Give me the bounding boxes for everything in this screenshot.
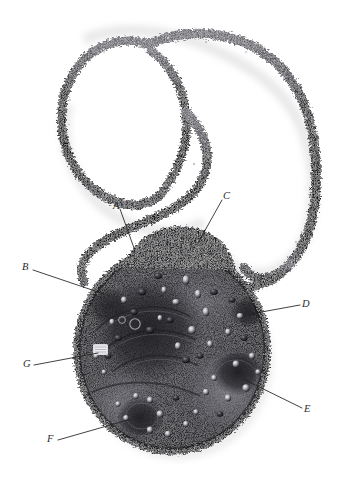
callout-label-a: A <box>113 201 120 212</box>
pale-rectangular-stone <box>93 344 108 355</box>
necklace-photograph-svg <box>0 0 337 486</box>
callout-label-b: B <box>22 262 29 273</box>
callout-label-g: G <box>23 359 31 370</box>
callout-label-d: D <box>302 299 310 310</box>
callout-label-e: E <box>304 404 311 415</box>
figure-container: A B C D E F G <box>0 0 337 486</box>
callout-label-c: C <box>223 191 230 202</box>
callout-label-f: F <box>47 434 54 445</box>
necklace-photograph <box>0 0 337 486</box>
